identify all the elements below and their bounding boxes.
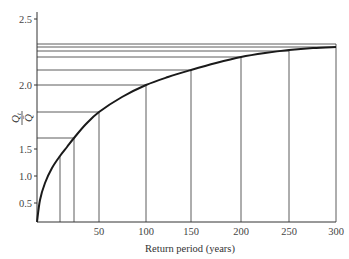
y-tick-label: 1.5 xyxy=(19,144,32,155)
y-tick-label: 2.5 xyxy=(19,14,32,25)
y-label-denominator: Q̄ xyxy=(22,114,34,122)
x-tick-label: 50 xyxy=(94,226,105,237)
axes xyxy=(37,12,336,222)
x-axis-label: Return period (years) xyxy=(145,243,235,255)
x-tick-label: 250 xyxy=(281,226,297,237)
y-tick-label: 2.0 xyxy=(19,80,32,91)
x-tick-label: 150 xyxy=(183,226,199,237)
growth-curve-chart: 0.51.01.52.02.5 50100150200250300 Qt Q̄ … xyxy=(0,0,349,259)
x-axis-ticks: 50100150200250300 xyxy=(94,226,344,237)
growth-curve-line xyxy=(37,47,336,222)
y-axis-label: Qt Q̄ xyxy=(9,111,34,125)
y-tick-label: 1.0 xyxy=(19,171,32,182)
x-tick-label: 100 xyxy=(138,226,154,237)
y-label-numerator: Qt xyxy=(9,112,23,123)
x-tick-label: 300 xyxy=(328,226,344,237)
y-axis-ticks: 0.51.01.52.02.5 xyxy=(19,14,37,209)
y-tick-label: 0.5 xyxy=(19,198,32,209)
x-tick-label: 200 xyxy=(233,226,249,237)
